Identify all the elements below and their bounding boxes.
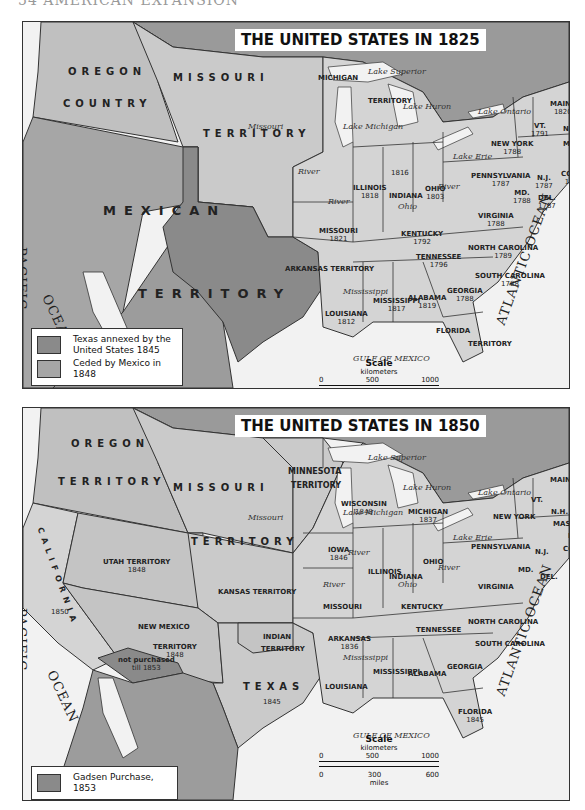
state-label: CONN.	[563, 545, 570, 553]
state-admission-year: 1845	[458, 716, 492, 724]
state-admission-year: 1817	[373, 305, 420, 313]
state-label: KENTUCKY	[401, 603, 443, 611]
scale-bar: Scale kilometers 050010000300600miles	[319, 358, 439, 389]
scale-title: Scale	[319, 734, 439, 744]
state-name: GEORGIA	[447, 287, 483, 295]
state-name: MISSOURI	[323, 603, 362, 611]
scale-tick-label: 600	[426, 771, 439, 779]
ocean-label: PACIFIC	[22, 247, 29, 310]
scale-bar: Scale kilometers 050010000300600miles	[319, 734, 439, 787]
state-admission-year: 1788	[513, 197, 531, 205]
state-name: NEW YORK	[493, 513, 535, 521]
scale-title: Scale	[319, 358, 439, 368]
state-admission-year: 1837	[408, 516, 448, 524]
state-name: KANSAS TERRITORY	[218, 588, 296, 596]
water-label: Lake Michigan	[343, 122, 403, 131]
state-label: MD.	[518, 566, 533, 574]
state-admission-year: 1818	[353, 192, 387, 200]
state-admission-year: till 1853	[118, 664, 175, 672]
state-name: LOUISIANA	[325, 683, 368, 691]
state-admission-year: 1850	[51, 608, 69, 616]
state-admission-year: 1787	[535, 182, 553, 190]
region-label-minnesota: MINNESOTA	[288, 468, 341, 476]
state-name: PENNSYLVANIA	[471, 172, 530, 180]
state-admission-year: 1836	[328, 643, 371, 651]
state-label: NEW YORK1788	[491, 140, 533, 156]
water-label: River	[348, 548, 370, 557]
map-title: THE UNITED STATES IN 1850	[235, 415, 486, 437]
state-label: MISSISSIPPI	[373, 668, 420, 676]
state-admission-year: 1787	[471, 180, 530, 188]
state-label: ILLINOIS1818	[353, 184, 387, 200]
state-name: TENNESSEE	[416, 626, 461, 634]
legend-label: Gadsen Purchase, 1853	[73, 772, 172, 794]
state-name: ARKANSAS	[328, 635, 371, 643]
state-label: MD.1788	[513, 189, 531, 205]
state-admission-year: 1846	[328, 554, 349, 562]
region-label-mexican: MEXICAN	[103, 207, 226, 215]
state-name: CONN.	[561, 170, 570, 178]
scale-km-label: kilometers	[319, 368, 439, 376]
water-label: River	[328, 197, 350, 206]
legend-swatch	[37, 336, 61, 354]
state-name: ARKANSAS TERRITORY	[285, 265, 374, 273]
legend-swatch	[37, 774, 61, 792]
state-label: LOUISIANA	[325, 683, 368, 691]
water-label: Mississippi	[343, 653, 388, 662]
region-label-oregon: OREGON	[68, 68, 146, 76]
state-name: MICHIGAN	[318, 74, 358, 82]
state-admission-year: 1788	[491, 148, 533, 156]
state-label: N.H. 1788	[563, 125, 570, 133]
state-name: VIRGINIA	[478, 583, 514, 591]
state-label: MASS. 1788	[563, 140, 570, 148]
water-label: River	[438, 182, 460, 191]
map-title: THE UNITED STATES IN 1825	[235, 29, 486, 51]
state-admission-year: 1788	[561, 178, 570, 186]
state-label: LOUISIANA1812	[325, 310, 368, 326]
state-admission-year: 1792	[401, 238, 443, 246]
water-label: Lake Michigan	[343, 508, 403, 517]
state-label: MISSISSIPPI1817	[373, 297, 420, 313]
state-admission-year: 1788	[478, 220, 514, 228]
state-label: GEORGIA	[447, 663, 483, 671]
state-name: GEORGIA	[447, 663, 483, 671]
state-name: N.H.	[551, 508, 568, 516]
state-label: TERRITORY	[468, 340, 512, 348]
state-admission-year: 1796	[416, 261, 461, 269]
water-label: Lake Ontario	[478, 488, 531, 497]
state-name: PENNSYLVANIA	[471, 543, 530, 551]
water-label: Lake Superior	[368, 67, 426, 76]
region-label-territory: TERRITORY	[58, 478, 166, 486]
region-label-minnesota-territory: TERRITORY	[291, 482, 341, 490]
state-name: VT.	[531, 496, 543, 504]
state-label: PENNSYLVANIA1787	[471, 172, 530, 188]
scale-line-miles	[319, 766, 439, 770]
state-name: MD.	[518, 566, 533, 574]
state-name: VT.	[534, 122, 546, 130]
state-label: VIRGINIA	[478, 583, 514, 591]
scale-tick-label: 1000	[421, 752, 439, 760]
state-label: MICHIGAN	[318, 74, 358, 82]
state-label: PENNSYLVANIA	[471, 543, 530, 551]
state-name: MASS.	[553, 520, 570, 528]
water-label: River	[438, 563, 460, 572]
state-label: TERRITORY	[261, 645, 305, 653]
scale-tick-label: 0	[319, 376, 323, 384]
water-label: Mississippi	[343, 287, 388, 296]
state-label: INDIANA	[389, 192, 423, 200]
state-name: KENTUCKY	[401, 230, 443, 238]
state-label: MAINE1820	[550, 100, 570, 116]
state-name: R.I.	[568, 532, 570, 540]
state-name: TENNESSEE	[416, 253, 461, 261]
legend-item-texas: Texas annexed by the United States 1845	[37, 334, 177, 356]
state-name: N.J.	[535, 548, 549, 556]
scale-line-km	[319, 385, 439, 389]
scale-tick-label: 0	[319, 752, 323, 760]
water-label: Lake Huron	[403, 102, 451, 111]
legend-swatch	[37, 360, 61, 378]
scale-tick-label: 500	[366, 752, 379, 760]
state-label: CONN.1788	[561, 170, 570, 186]
state-label: 1845	[263, 698, 281, 706]
state-name: MISSOURI	[319, 227, 358, 235]
state-name: NEW YORK	[491, 140, 533, 148]
